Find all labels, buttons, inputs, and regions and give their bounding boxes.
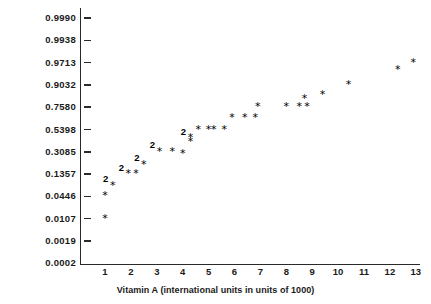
y-axis-tick: [84, 218, 91, 220]
y-axis-tick-label: 0.7580: [18, 101, 76, 112]
data-point-marker: *: [318, 89, 327, 100]
data-point-count-label: 2: [101, 173, 110, 184]
data-point-marker: *: [282, 101, 291, 112]
y-axis-tick-label: 0.0107: [18, 213, 76, 224]
y-axis-tick: [84, 84, 91, 86]
x-axis-tick-label: 10: [327, 266, 349, 277]
data-point-marker: *: [101, 190, 110, 201]
x-axis-tick-label: 3: [146, 266, 168, 277]
data-point-marker: *: [209, 124, 218, 135]
data-point-marker: *: [132, 168, 141, 179]
x-axis-tick-label: 6: [224, 266, 246, 277]
y-axis-tick-label: 0.5398: [18, 124, 76, 135]
data-point-count-label: 2: [179, 126, 188, 137]
data-point-marker: *: [251, 112, 260, 123]
data-point-marker: *: [178, 148, 187, 159]
y-axis-line: [80, 8, 81, 265]
x-axis-tick-label: 5: [198, 266, 220, 277]
data-point-marker: *: [409, 57, 418, 68]
y-axis-tick: [84, 129, 91, 131]
x-axis-tick-label: 13: [405, 266, 427, 277]
y-axis-tick-label: 0.3085: [18, 146, 76, 157]
data-point-count-label: 2: [132, 152, 141, 163]
data-point-marker: *: [393, 64, 402, 75]
data-point-marker: *: [295, 101, 304, 112]
y-axis-tick-label: 0.9938: [18, 34, 76, 45]
y-axis-tick: [84, 173, 91, 175]
data-point-marker: *: [220, 124, 229, 135]
x-axis-tick-label: 2: [120, 266, 142, 277]
y-axis-tick: [84, 62, 91, 64]
data-point-count-label: 2: [117, 162, 126, 173]
data-point-marker: *: [186, 136, 195, 147]
y-axis-tick: [84, 151, 91, 153]
data-point-marker: *: [240, 112, 249, 123]
y-axis-tick: [84, 240, 91, 242]
x-axis-tick-label: 8: [275, 266, 297, 277]
data-point-count-label: 2: [148, 139, 157, 150]
data-point-marker: *: [253, 101, 262, 112]
x-axis-tick-label: 4: [172, 266, 194, 277]
y-axis-tick-label: 0.0446: [18, 190, 76, 201]
y-axis-tick: [84, 196, 91, 198]
x-axis-tick-label: 7: [249, 266, 271, 277]
y-axis-tick-label: 0.9032: [18, 79, 76, 90]
y-axis-tick: [84, 17, 91, 19]
y-axis-tick-label: 0.1357: [18, 168, 76, 179]
data-point-marker: *: [227, 112, 236, 123]
data-point-marker: *: [204, 124, 213, 135]
x-axis-tick-label: 1: [94, 266, 116, 277]
x-axis-tick-label: 9: [301, 266, 323, 277]
data-point-marker: *: [300, 93, 309, 104]
y-axis-tick-label: 0.0002: [18, 257, 76, 268]
data-point-marker: *: [303, 101, 312, 112]
y-axis-tick-label: 0.9713: [18, 57, 76, 68]
normal-probability-plot: Cumulative Probabilities 0.99900.99380.9…: [0, 0, 431, 304]
y-axis-tick-label: 0.9990: [18, 12, 76, 23]
data-point-marker: *: [344, 79, 353, 90]
x-axis-tick-label: 11: [353, 266, 375, 277]
data-point-marker: *: [101, 213, 110, 224]
x-axis-tick-label: 12: [379, 266, 401, 277]
y-axis-tick: [84, 40, 91, 42]
data-point-marker: *: [194, 124, 203, 135]
data-point-marker: *: [168, 146, 177, 157]
x-axis-title: Vitamin A (international units in units …: [0, 285, 431, 295]
y-axis-tick: [84, 106, 91, 108]
y-axis-tick-label: 0.0019: [18, 235, 76, 246]
